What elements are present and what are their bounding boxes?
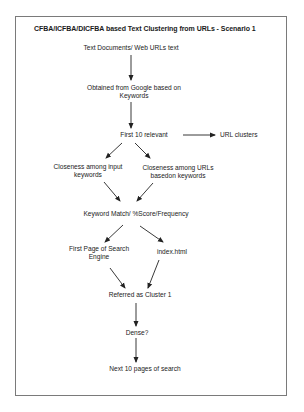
edge-first-page-to-cluster1 — [110, 268, 125, 288]
edge-keyword-match-to-first-page — [105, 225, 123, 242]
edge-index-to-cluster1 — [148, 260, 159, 288]
node-first-page-line2: Engine — [69, 253, 129, 261]
node-first10-text: First 10 relevant — [120, 131, 167, 139]
node-source-text: Text Documents/ Web URLs text — [83, 44, 178, 52]
node-next10: Next 10 pages of search — [109, 365, 180, 373]
node-next10-text: Next 10 pages of search — [109, 365, 180, 373]
node-first-page: First Page of Search Engine — [69, 245, 129, 262]
node-closeness-urls-line1: Closeness among URLs — [142, 164, 213, 172]
node-closeness-input-line2: keywords — [54, 171, 123, 179]
edge-first10-to-closeness-input — [106, 143, 122, 158]
node-url-clusters-text: URL clusters — [220, 131, 258, 139]
node-closeness-input-line1: Closeness among input — [54, 163, 123, 171]
node-cluster1-text: Referred as Cluster 1 — [109, 291, 172, 299]
node-url-clusters: URL clusters — [220, 131, 258, 139]
node-obtained: Obtained from Google based on Keywords — [87, 84, 181, 101]
edge-first10-to-closeness-urls — [135, 143, 150, 158]
node-obtained-line1: Obtained from Google based on — [87, 84, 181, 92]
edge-keyword-match-to-index — [140, 226, 163, 242]
node-closeness-input: Closeness among input keywords — [54, 163, 123, 180]
node-cluster1: Referred as Cluster 1 — [109, 291, 172, 299]
node-closeness-urls-line2: basedon keywords — [142, 172, 213, 180]
node-index-html-text: index.html — [157, 248, 187, 256]
node-keyword-match: Keyword Match/ %Score/Frequency — [83, 210, 188, 218]
node-index-html: index.html — [157, 248, 187, 256]
node-first10: First 10 relevant — [120, 131, 167, 139]
node-dense: Dense? — [126, 329, 149, 337]
node-obtained-line2: Keywords — [87, 92, 181, 100]
node-source: Text Documents/ Web URLs text — [83, 44, 178, 52]
diagram-edges — [0, 0, 304, 412]
node-keyword-match-text: Keyword Match/ %Score/Frequency — [83, 210, 188, 218]
node-first-page-line1: First Page of Search — [69, 245, 129, 253]
node-closeness-urls: Closeness among URLs basedon keywords — [142, 164, 213, 181]
edge-closeness-urls-to-keyword-match — [137, 183, 153, 201]
node-dense-text: Dense? — [126, 329, 149, 337]
edge-closeness-input-to-keyword-match — [104, 182, 120, 201]
